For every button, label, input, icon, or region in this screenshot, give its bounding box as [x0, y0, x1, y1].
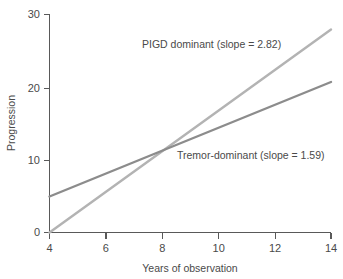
- series-line-tremor-dominant: [50, 82, 332, 197]
- annotation-pigd-dominant: PIGD dominant (slope = 2.82): [142, 38, 281, 50]
- chart-figure: 0 10 20 30 4 6 8 10 12 14 Years of obser…: [0, 0, 343, 279]
- y-tick-label-10: 10: [28, 154, 40, 166]
- x-tick-label-10: 10: [213, 242, 225, 254]
- x-tick-label-8: 8: [159, 242, 165, 254]
- x-tick-label-12: 12: [269, 242, 281, 254]
- series-line-pigd-dominant: [50, 30, 332, 233]
- y-tick-label-20: 20: [28, 82, 40, 94]
- annotation-tremor-dominant: Tremor-dominant (slope = 1.59): [177, 149, 325, 161]
- y-tick-label-0: 0: [34, 226, 40, 238]
- x-tick-label-4: 4: [46, 242, 52, 254]
- x-tick-label-14: 14: [325, 242, 337, 254]
- x-axis-title: Years of observation: [142, 262, 238, 274]
- y-axis-title: Progression: [5, 95, 17, 151]
- y-tick-label-30: 30: [28, 8, 40, 20]
- x-tick-label-6: 6: [103, 242, 109, 254]
- progression-line-chart: 0 10 20 30 4 6 8 10 12 14 Years of obser…: [0, 0, 343, 279]
